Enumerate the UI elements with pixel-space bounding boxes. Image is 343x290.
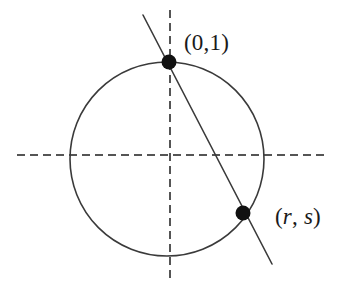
paren-open: ( xyxy=(275,204,283,229)
top-point-label: (0,1) xyxy=(184,31,229,54)
second-point-marker xyxy=(236,206,251,221)
label-comma: , xyxy=(292,204,304,229)
diagram-canvas xyxy=(0,0,343,290)
second-point-label: (r, s) xyxy=(275,205,321,228)
paren-close: ) xyxy=(313,204,321,229)
variable-s: s xyxy=(304,204,313,229)
top-point-marker xyxy=(162,55,177,70)
unit-circle xyxy=(70,62,264,256)
geometry-figure: (0,1) (r, s) xyxy=(0,0,343,290)
variable-r: r xyxy=(283,204,292,229)
